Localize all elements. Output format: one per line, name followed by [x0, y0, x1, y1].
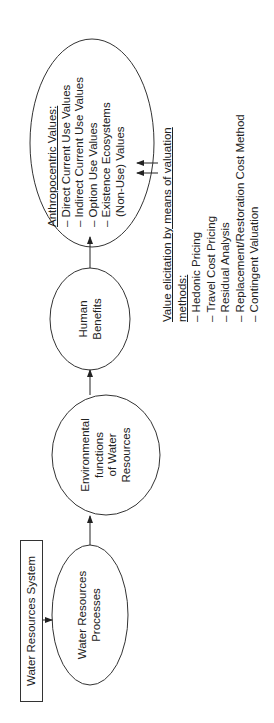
functions-line-3: of Water: [106, 405, 120, 505]
values-item: – Existence Ecosystems: [100, 47, 114, 227]
node-functions-label: Environmental functions of Water Resourc…: [79, 405, 133, 505]
processes-line-1: Water Resources: [76, 555, 90, 675]
valuation-method: – Contingent Valuation: [247, 2, 262, 322]
values-item: – Indirect Current Use Values: [73, 47, 87, 227]
diagram-canvas: Water Resources System Water Resources P…: [0, 0, 274, 723]
node-values-label: Anthropocentric Values: – Direct Current…: [46, 47, 127, 227]
values-item: (Non-Use) Values: [114, 47, 128, 227]
functions-line-2: functions: [93, 405, 107, 505]
valuation-method: – Residual Analysis: [218, 2, 233, 322]
water-resources-system-label: Water Resources System: [20, 540, 43, 702]
functions-line-4: Resources: [120, 405, 134, 505]
values-title: Anthropocentric Values:: [46, 47, 60, 227]
benefits-line-2: Benefits: [91, 279, 105, 359]
benefits-line-1: Human: [77, 279, 91, 359]
node-processes-label: Water Resources Processes: [76, 555, 103, 675]
values-item: – Option Use Values: [87, 47, 101, 227]
valuation-method: – Travel Cost Pricing: [204, 2, 219, 322]
functions-line-1: Environmental: [79, 405, 93, 505]
valuation-method: – Hedonic Pricing: [189, 2, 204, 322]
values-list: – Direct Current Use Values – Indirect C…: [60, 47, 128, 227]
valuation-method: – Replacement/Restoration Cost Method: [233, 2, 248, 322]
values-item: – Direct Current Use Values: [60, 47, 74, 227]
valuation-methods-block: Value elicitation by means of valuation …: [160, 2, 262, 322]
node-benefits-label: Human Benefits: [77, 279, 104, 359]
valuation-methods-list: – Hedonic Pricing – Travel Cost Pricing …: [189, 2, 262, 322]
valuation-title-line-1: Value elicitation by means of valuation: [160, 2, 175, 322]
valuation-title-line-2: methods:: [175, 275, 190, 322]
processes-line-2: Processes: [90, 555, 104, 675]
